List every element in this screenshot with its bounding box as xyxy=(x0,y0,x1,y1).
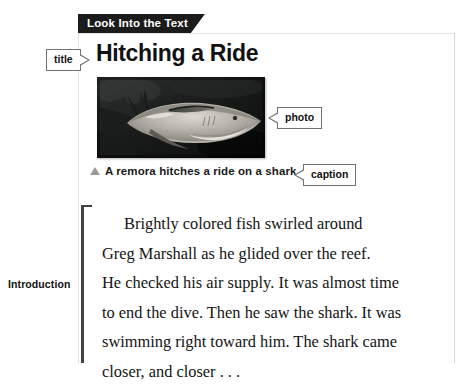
body-line: closer, and closer . . . xyxy=(102,357,452,384)
photo-caption: A remora hitches a ride on a shark. xyxy=(90,165,300,177)
article-photo xyxy=(97,77,265,158)
shark-photo-graphic xyxy=(97,77,265,158)
callout-photo: photo xyxy=(277,107,322,129)
body-line: He checked his air supply. It was almost… xyxy=(102,268,452,298)
body-line: Greg Marshall as he glided over the reef… xyxy=(102,239,452,269)
callout-title: title xyxy=(46,49,81,71)
article-title: Hitching a Ride xyxy=(96,42,258,65)
body-line: Brightly colored fish swirled around xyxy=(102,209,452,239)
body-line: to end the dive. Then he saw the shark. … xyxy=(102,298,452,328)
introduction-bracket xyxy=(81,205,92,363)
margin-annotation-introduction: Introduction xyxy=(8,278,70,290)
article-body-text: Brightly colored fish swirled around Gre… xyxy=(102,209,452,384)
body-line: swimming right toward him. The shark cam… xyxy=(102,327,452,357)
callout-caption: caption xyxy=(303,164,356,186)
triangle-up-icon xyxy=(90,167,100,175)
photo-caption-text: A remora hitches a ride on a shark. xyxy=(105,165,300,177)
section-tab-look-into-the-text: Look Into the Text xyxy=(78,14,205,33)
